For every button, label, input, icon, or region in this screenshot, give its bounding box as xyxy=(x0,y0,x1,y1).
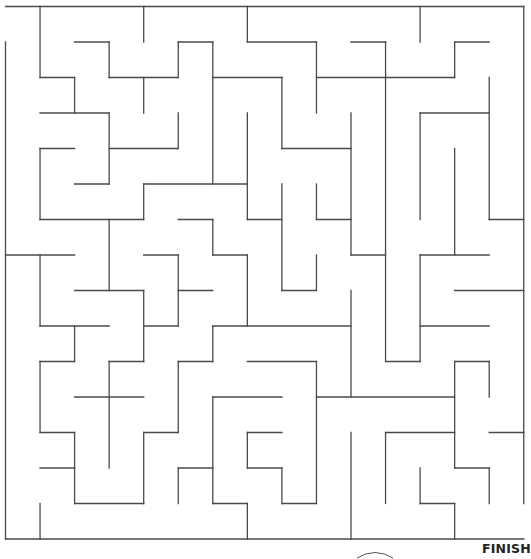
finish-label: FINISH xyxy=(482,541,531,556)
arc-icon xyxy=(355,549,395,559)
